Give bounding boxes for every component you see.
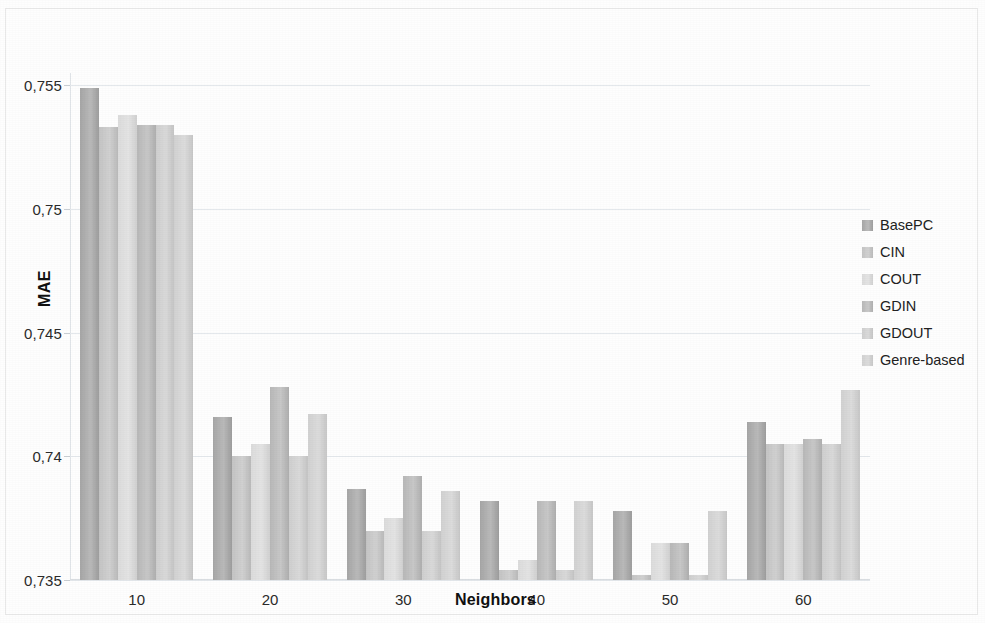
bar-group	[337, 73, 470, 580]
legend-label: CIN	[880, 245, 905, 260]
y-tick-label: 0,75	[4, 201, 62, 218]
y-axis-tick-labels: 0,7350,740,7450,750,755	[0, 73, 62, 580]
bar-cin-40[interactable]	[499, 570, 518, 580]
bar-gdin-40[interactable]	[537, 501, 556, 580]
bar-groups	[70, 73, 870, 580]
y-tick-label: 0,735	[4, 572, 62, 589]
bar-gdin-20[interactable]	[270, 387, 289, 580]
bar-gdin-10[interactable]	[137, 125, 156, 580]
plot-area	[70, 73, 870, 580]
legend-swatch-icon	[862, 301, 873, 312]
x-tick-label: 50	[603, 588, 736, 616]
legend-item-basepc[interactable]: BasePC	[862, 212, 980, 239]
bar-group	[470, 73, 603, 580]
y-tick-label: 0,74	[4, 448, 62, 465]
legend-item-genre-based[interactable]: Genre-based	[862, 347, 980, 374]
gridline	[70, 580, 870, 581]
x-axis-title: Neighbors	[455, 588, 536, 612]
bar-group	[603, 73, 736, 580]
bar-group	[70, 73, 203, 580]
bar-gdout-50[interactable]	[689, 575, 708, 580]
bar-genre-based-50[interactable]	[708, 511, 727, 580]
legend-swatch-icon	[862, 220, 873, 231]
x-tick-label: 10	[70, 588, 203, 616]
bar-chart: MAE 0,7350,740,7450,750,755 102030405060…	[0, 0, 985, 623]
bar-cout-10[interactable]	[118, 115, 137, 580]
bar-basepc-50[interactable]	[613, 511, 632, 580]
legend-item-gdin[interactable]: GDIN	[862, 293, 980, 320]
x-tick-label: 20	[203, 588, 336, 616]
bar-cout-20[interactable]	[251, 444, 270, 580]
legend-item-cout[interactable]: COUT	[862, 266, 980, 293]
bar-genre-based-40[interactable]	[574, 501, 593, 580]
bar-basepc-20[interactable]	[213, 417, 232, 580]
bar-gdout-20[interactable]	[289, 456, 308, 580]
bar-genre-based-30[interactable]	[441, 491, 460, 580]
bar-basepc-30[interactable]	[347, 489, 366, 581]
bar-cin-20[interactable]	[232, 456, 251, 580]
legend-item-cin[interactable]: CIN	[862, 239, 980, 266]
bar-gdout-30[interactable]	[422, 531, 441, 580]
bar-gdout-40[interactable]	[556, 570, 575, 580]
legend-label: COUT	[880, 272, 921, 287]
legend-swatch-icon	[862, 274, 873, 285]
bar-cout-60[interactable]	[784, 444, 803, 580]
bar-set	[747, 73, 860, 580]
bar-genre-based-20[interactable]	[308, 414, 327, 580]
y-tick-mark	[64, 580, 70, 581]
bar-basepc-40[interactable]	[480, 501, 499, 580]
bar-gdout-60[interactable]	[822, 444, 841, 580]
bar-gdout-10[interactable]	[156, 125, 175, 580]
bar-group	[203, 73, 336, 580]
bar-set	[480, 73, 593, 580]
bar-cin-30[interactable]	[366, 531, 385, 580]
bar-cout-40[interactable]	[518, 560, 537, 580]
y-tick-label: 0,755	[4, 77, 62, 94]
x-tick-label: 60	[737, 588, 870, 616]
chart-legend: BasePCCINCOUTGDINGDOUTGenre-based	[862, 212, 980, 374]
bar-basepc-10[interactable]	[80, 88, 99, 580]
bar-set	[347, 73, 460, 580]
legend-swatch-icon	[862, 355, 873, 366]
legend-label: Genre-based	[880, 353, 965, 368]
bar-genre-based-60[interactable]	[841, 390, 860, 580]
bar-gdin-50[interactable]	[670, 543, 689, 580]
bar-cin-10[interactable]	[99, 127, 118, 580]
bar-genre-based-10[interactable]	[174, 135, 193, 580]
bar-gdin-30[interactable]	[403, 476, 422, 580]
legend-label: BasePC	[880, 218, 933, 233]
y-tick-label: 0,745	[4, 324, 62, 341]
bar-set	[80, 73, 193, 580]
bar-cout-30[interactable]	[384, 518, 403, 580]
legend-label: GDOUT	[880, 326, 932, 341]
legend-swatch-icon	[862, 328, 873, 339]
bar-basepc-60[interactable]	[747, 422, 766, 580]
bar-group	[737, 73, 870, 580]
bar-cin-50[interactable]	[632, 575, 651, 580]
legend-item-gdout[interactable]: GDOUT	[862, 320, 980, 347]
bar-gdin-60[interactable]	[803, 439, 822, 580]
legend-label: GDIN	[880, 299, 916, 314]
bar-cout-50[interactable]	[651, 543, 670, 580]
bar-set	[213, 73, 326, 580]
bar-cin-60[interactable]	[766, 444, 785, 580]
legend-swatch-icon	[862, 247, 873, 258]
x-tick-label: 30	[337, 588, 470, 616]
bar-set	[613, 73, 726, 580]
